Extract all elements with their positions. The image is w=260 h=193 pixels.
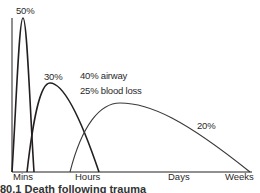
figure-caption: 80.1 Death following trauma <box>0 183 146 193</box>
curve-early-deaths <box>27 83 99 172</box>
x-tick-mins: Mins <box>13 172 33 182</box>
curve-late-deaths <box>70 103 250 172</box>
x-tick-hours: Hours <box>75 172 100 182</box>
annotation-blood-loss: 25% blood loss <box>80 86 142 96</box>
peak-label-50: 50% <box>16 6 34 16</box>
peak-label-20: 20% <box>197 121 215 131</box>
peak-label-30: 30% <box>44 72 62 82</box>
trimodal-death-chart <box>0 0 260 193</box>
x-tick-days: Days <box>168 172 190 182</box>
x-tick-weeks: Weeks <box>225 172 254 182</box>
annotation-airway: 40% airway <box>80 71 127 81</box>
